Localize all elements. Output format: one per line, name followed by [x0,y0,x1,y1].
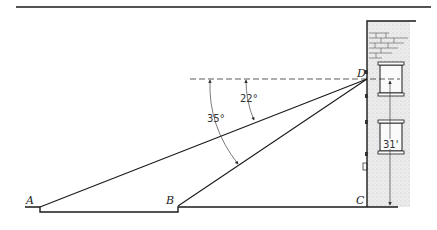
ground-line [25,207,398,212]
label-angle-22: 22° [240,93,258,104]
building [363,21,416,207]
label-height-31: 31' [383,139,398,150]
label-C: C [356,194,365,207]
label-A: A [25,194,34,207]
label-D: D [356,67,366,80]
label-angle-35: 35° [207,113,225,124]
angle-of-depression-diagram: A B C D 22° 35° 31' [0,0,437,230]
building-wall [367,21,410,207]
line-DB [178,79,367,206]
label-B: B [165,194,174,207]
line-DA [40,79,367,207]
